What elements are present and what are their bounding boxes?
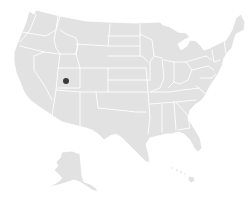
contiguous-us-landmass: [14, 10, 245, 162]
hawaii-islands: [171, 167, 195, 183]
alaska-landmass: [50, 151, 98, 192]
location-marker-icon[interactable]: [63, 78, 69, 84]
us-map-svg: [0, 0, 248, 211]
us-map: [0, 0, 248, 211]
